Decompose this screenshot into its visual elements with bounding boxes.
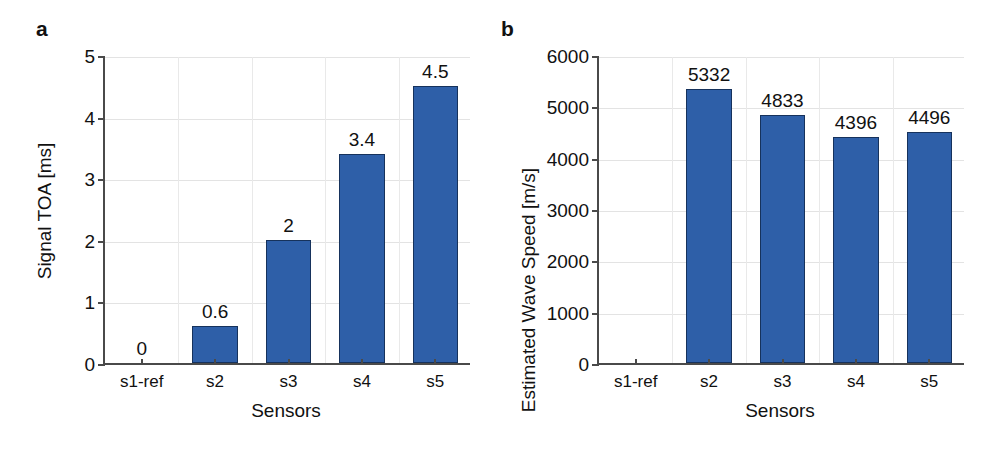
x-axis-title-a: Sensors <box>251 400 321 422</box>
x-tick-mark <box>214 359 216 365</box>
y-tick-mark <box>592 364 599 366</box>
y-tick-label: 2 <box>84 231 95 253</box>
x-tick-label-s5: s5 <box>426 372 444 392</box>
bar-value-s4: 3.4 <box>349 129 375 151</box>
x-tick-mark <box>288 359 290 365</box>
y-tick-mark <box>98 302 105 304</box>
y-tick-mark <box>592 159 599 161</box>
x-tick-mark <box>855 359 857 365</box>
gridline-vertical <box>819 57 820 363</box>
x-tick-label-s5: s5 <box>920 372 938 392</box>
x-tick-label-s1-ref: s1-ref <box>614 372 657 392</box>
x-tick-label-s3: s3 <box>280 372 298 392</box>
bar-value-s5: 4.5 <box>422 61 448 83</box>
y-tick-mark <box>98 56 105 58</box>
x-tick-mark <box>434 359 436 365</box>
bar-value-s3: 4833 <box>761 90 803 112</box>
y-tick-mark <box>98 364 105 366</box>
bar-s4[interactable] <box>833 137 879 363</box>
gridline-vertical <box>325 57 326 363</box>
bar-value-s1-ref: 0 <box>136 338 147 360</box>
y-tick-label: 1 <box>84 292 95 314</box>
x-tick-mark <box>361 359 363 365</box>
panel-a: a 012345 s1-refs2s3s4s5 00.623.44.5 Sens… <box>0 0 496 453</box>
y-tick-mark <box>592 313 599 315</box>
x-tick-label-s4: s4 <box>847 372 865 392</box>
y-tick-label: 3 <box>84 169 95 191</box>
plot-area-a: 012345 s1-refs2s3s4s5 00.623.44.5 <box>103 57 470 365</box>
x-tick-label-s1-ref: s1-ref <box>120 372 163 392</box>
gridline-horizontal <box>599 57 964 58</box>
y-tick-mark <box>98 179 105 181</box>
figure-root: a 012345 s1-refs2s3s4s5 00.623.44.5 Sens… <box>0 0 992 453</box>
bar-s3[interactable] <box>760 115 806 363</box>
plot-area-b: 0100020003000400050006000 s1-refs2s3s4s5… <box>597 57 964 365</box>
panel-b: b 0100020003000400050006000 s1-refs2s3s4… <box>496 0 992 453</box>
x-tick-label-s3: s3 <box>774 372 792 392</box>
bar-s5[interactable] <box>907 132 953 363</box>
bar-value-s5: 4496 <box>908 107 950 129</box>
bar-value-s2: 0.6 <box>202 301 228 323</box>
y-axis-title-a: Signal TOA [ms] <box>34 143 56 280</box>
gridline-vertical <box>178 57 179 363</box>
panel-label-a: a <box>36 18 48 39</box>
y-tick-label: 0 <box>578 354 589 376</box>
y-tick-label: 4 <box>84 108 95 130</box>
x-tick-label-s2: s2 <box>700 372 718 392</box>
panel-label-b: b <box>501 18 514 39</box>
y-tick-mark <box>592 261 599 263</box>
y-tick-mark <box>592 210 599 212</box>
y-tick-mark <box>592 56 599 58</box>
gridline-vertical <box>399 57 400 363</box>
bar-s5[interactable] <box>413 86 459 363</box>
gridline-vertical <box>746 57 747 363</box>
x-tick-mark <box>708 359 710 365</box>
y-tick-mark <box>98 118 105 120</box>
x-tick-mark <box>635 359 637 365</box>
bar-s4[interactable] <box>339 154 385 363</box>
gridline-vertical <box>893 57 894 363</box>
y-tick-label: 1000 <box>547 303 589 325</box>
bar-s2[interactable] <box>686 89 732 363</box>
y-tick-label: 5 <box>84 46 95 68</box>
bar-value-s4: 4396 <box>835 112 877 134</box>
y-tick-label: 2000 <box>547 251 589 273</box>
bar-s2[interactable] <box>192 326 238 363</box>
y-tick-mark <box>98 241 105 243</box>
y-tick-label: 4000 <box>547 149 589 171</box>
gridline-vertical <box>672 57 673 363</box>
x-tick-mark <box>928 359 930 365</box>
gridline-vertical <box>252 57 253 363</box>
bar-value-s2: 5332 <box>688 64 730 86</box>
bar-value-s3: 2 <box>283 215 294 237</box>
y-axis-title-b: Estimated Wave Speed [m/s] <box>518 168 540 412</box>
x-tick-label-s2: s2 <box>206 372 224 392</box>
y-tick-label: 3000 <box>547 200 589 222</box>
bar-s3[interactable] <box>266 240 312 363</box>
y-tick-label: 0 <box>84 354 95 376</box>
x-tick-label-s4: s4 <box>353 372 371 392</box>
y-tick-label: 6000 <box>547 46 589 68</box>
x-axis-title-b: Sensors <box>745 400 815 422</box>
x-tick-mark <box>782 359 784 365</box>
gridline-horizontal <box>105 57 470 58</box>
y-tick-label: 5000 <box>547 97 589 119</box>
y-tick-mark <box>592 107 599 109</box>
